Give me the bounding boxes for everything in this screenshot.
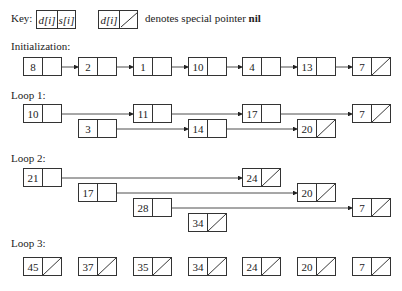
node-value: 35 xyxy=(134,258,153,275)
node-value: 7 xyxy=(353,105,372,122)
nil-slash-icon xyxy=(317,184,335,201)
loop1-node-3: 3 xyxy=(78,119,117,138)
node-value: 10 xyxy=(24,105,43,122)
node-value: 28 xyxy=(134,199,153,216)
nil-slash-icon xyxy=(317,120,335,137)
loop1-node-17: 17 xyxy=(242,104,281,123)
loop1-node-7: 7 xyxy=(352,104,391,123)
nil-slash-icon xyxy=(317,258,335,275)
nil-slash-icon xyxy=(208,258,226,275)
node-value: 20 xyxy=(298,258,317,275)
node-pointer xyxy=(153,199,171,216)
loop3-node-2: 35 xyxy=(133,257,172,276)
key-cell-s: s[i] xyxy=(58,11,75,28)
node-value: 34 xyxy=(189,214,208,231)
init-node-1: 2 xyxy=(78,57,117,76)
node-value: 14 xyxy=(189,120,208,137)
nil-slash-icon xyxy=(372,199,390,216)
node-pointer xyxy=(153,58,171,75)
node-pointer xyxy=(43,58,61,75)
node-pointer xyxy=(43,169,61,186)
init-node-0: 8 xyxy=(23,57,62,76)
nil-slash-icon xyxy=(262,169,280,186)
loop1-node-10: 10 xyxy=(23,104,62,123)
loop3-node-4: 24 xyxy=(242,257,281,276)
node-value: 45 xyxy=(24,258,43,275)
node-pointer xyxy=(98,120,116,137)
section-label-loop2: Loop 2: xyxy=(11,152,46,164)
init-node-4: 4 xyxy=(242,57,281,76)
section-label-init: Initialization: xyxy=(11,40,70,52)
section-label-loop3: Loop 3: xyxy=(11,237,46,249)
nil-slash-icon xyxy=(262,258,280,275)
nil-slash-icon xyxy=(98,258,116,275)
section-label-loop1: Loop 1: xyxy=(11,89,46,101)
loop3-node-3: 34 xyxy=(188,257,227,276)
nil-slash-icon xyxy=(120,11,137,28)
node-value: 17 xyxy=(243,105,262,122)
key-nil-node: d[i] xyxy=(98,10,138,29)
nil-slash-icon xyxy=(208,214,226,231)
node-value: 21 xyxy=(24,169,43,186)
node-value: 24 xyxy=(243,258,262,275)
loop2-node-7: 7 xyxy=(352,198,391,217)
node-pointer xyxy=(98,58,116,75)
node-value: 13 xyxy=(298,58,317,75)
node-pointer xyxy=(317,58,335,75)
node-value: 3 xyxy=(79,120,98,137)
node-value: 7 xyxy=(353,258,372,275)
node-value: 4 xyxy=(243,58,262,75)
loop3-node-0: 45 xyxy=(23,257,62,276)
init-node-6: 7 xyxy=(352,57,391,76)
node-value: 7 xyxy=(353,58,372,75)
node-pointer xyxy=(43,105,61,122)
node-pointer xyxy=(153,105,171,122)
loop2-node-21: 21 xyxy=(23,168,62,187)
loop2-node-17: 17 xyxy=(78,183,117,202)
node-value: 8 xyxy=(24,58,43,75)
node-value: 10 xyxy=(189,58,208,75)
key-nil-cell-d: d[i] xyxy=(99,11,120,28)
loop1-node-20: 20 xyxy=(297,119,336,138)
node-pointer xyxy=(262,105,280,122)
node-value: 2 xyxy=(79,58,98,75)
key-label: Key: xyxy=(11,12,32,24)
loop2-node-28: 28 xyxy=(133,198,172,217)
loop3-node-1: 37 xyxy=(78,257,117,276)
loop2-node-24: 24 xyxy=(242,168,281,187)
init-node-5: 13 xyxy=(297,57,336,76)
loop3-node-6: 7 xyxy=(352,257,391,276)
nil-slash-icon xyxy=(372,105,390,122)
node-value: 37 xyxy=(79,258,98,275)
node-pointer xyxy=(98,184,116,201)
key-cell-d: d[i] xyxy=(37,11,58,28)
nil-slash-icon xyxy=(372,58,390,75)
node-pointer xyxy=(262,58,280,75)
node-value: 20 xyxy=(298,120,317,137)
init-node-2: 1 xyxy=(133,57,172,76)
nil-slash-icon xyxy=(153,258,171,275)
init-node-3: 10 xyxy=(188,57,227,76)
loop2-node-34: 34 xyxy=(188,213,227,232)
node-value: 7 xyxy=(353,199,372,216)
loop1-node-11: 11 xyxy=(133,104,172,123)
node-value: 34 xyxy=(189,258,208,275)
loop1-node-14: 14 xyxy=(188,119,227,138)
node-value: 1 xyxy=(134,58,153,75)
loop3-node-5: 20 xyxy=(297,257,336,276)
node-value: 24 xyxy=(243,169,262,186)
node-value: 11 xyxy=(134,105,153,122)
node-value: 17 xyxy=(79,184,98,201)
key-description: denotes special pointer nil xyxy=(145,12,261,24)
node-pointer xyxy=(208,58,226,75)
node-pointer xyxy=(208,120,226,137)
node-value: 20 xyxy=(298,184,317,201)
key-node: d[i] s[i] xyxy=(36,10,76,29)
nil-slash-icon xyxy=(372,258,390,275)
loop2-node-20: 20 xyxy=(297,183,336,202)
nil-slash-icon xyxy=(43,258,61,275)
